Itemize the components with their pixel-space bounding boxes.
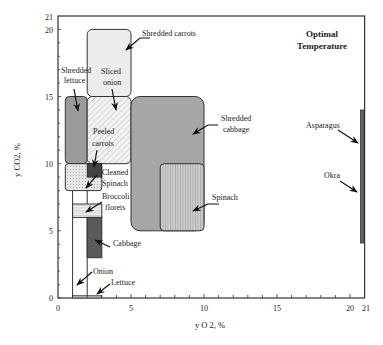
svg-text:Cleaned: Cleaned (102, 168, 128, 177)
region-asparagus-okra (361, 110, 365, 243)
svg-text:onion: onion (103, 78, 121, 87)
svg-text:Broccoli: Broccoli (102, 192, 130, 201)
svg-text:10: 10 (200, 304, 208, 313)
svg-text:Cabbage: Cabbage (113, 239, 141, 248)
svg-text:carrots: carrots (92, 139, 114, 148)
svg-text:0: 0 (56, 304, 60, 313)
chart-title-line2: Temperature (297, 41, 347, 51)
svg-text:15: 15 (273, 304, 281, 313)
svg-text:Okra: Okra (324, 171, 340, 180)
svg-text:Peeled: Peeled (93, 127, 114, 136)
svg-text:0: 0 (49, 294, 53, 303)
svg-text:Spinach: Spinach (102, 179, 128, 188)
x-axis-label: y O 2, % (195, 320, 225, 330)
svg-text:lettuce: lettuce (64, 76, 86, 85)
y-tick-labels: 0 5 10 15 20 21 (45, 13, 53, 303)
svg-text:cabbage: cabbage (223, 125, 250, 134)
svg-text:Shredded: Shredded (221, 114, 251, 123)
svg-text:Sliced: Sliced (101, 67, 121, 76)
svg-text:Lettuce: Lettuce (111, 278, 135, 287)
region-shredded-lettuce (65, 97, 87, 164)
svg-text:20: 20 (346, 304, 354, 313)
region-spinach (160, 164, 204, 231)
svg-text:5: 5 (129, 304, 133, 313)
y-axis-label: y CO2, % (12, 143, 22, 177)
svg-text:5: 5 (49, 227, 53, 236)
svg-text:21: 21 (45, 13, 53, 22)
atmosphere-chart: 0 5 10 15 20 21 0 5 10 15 20 21 y O 2, %… (0, 0, 383, 345)
svg-text:Spinach: Spinach (212, 193, 238, 202)
svg-text:Onion: Onion (93, 267, 113, 276)
svg-text:Asparagus: Asparagus (306, 121, 340, 130)
region-cabbage (87, 217, 102, 257)
svg-text:15: 15 (45, 93, 53, 102)
svg-text:Shredded carrots: Shredded carrots (142, 29, 196, 38)
svg-text:Shredded: Shredded (61, 66, 91, 75)
svg-text:10: 10 (45, 160, 53, 169)
svg-text:florets: florets (105, 203, 125, 212)
svg-text:20: 20 (45, 26, 53, 35)
svg-text:21: 21 (362, 304, 370, 313)
x-tick-labels: 0 5 10 15 20 21 (56, 304, 370, 313)
chart-title-line1: Optimal (306, 29, 339, 39)
